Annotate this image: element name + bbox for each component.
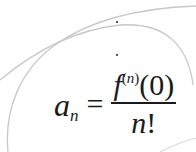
formula-lhs: an: [54, 89, 79, 124]
lhs-base: a: [54, 87, 70, 123]
formula-figure: an = f(n)(0) n!: [0, 0, 196, 152]
factorial-symbol: !: [146, 106, 156, 139]
fraction: f(n)(0) n!: [111, 70, 176, 138]
denominator-variable: n: [131, 106, 146, 139]
function-symbol: f: [113, 68, 121, 101]
function-argument: (0): [139, 68, 174, 101]
fraction-denominator: n!: [131, 104, 156, 138]
dot-marker-upper: [116, 21, 118, 23]
lhs-subscript: n: [70, 106, 79, 125]
maclaurin-coefficient-formula: an = f(n)(0) n!: [54, 68, 176, 140]
derivative-order: (n): [122, 70, 140, 86]
fraction-numerator: f(n)(0): [111, 70, 176, 102]
equals-sign: =: [87, 89, 104, 119]
bottom-right-arc-curve: [160, 138, 196, 152]
dot-marker-lower: [116, 54, 118, 56]
